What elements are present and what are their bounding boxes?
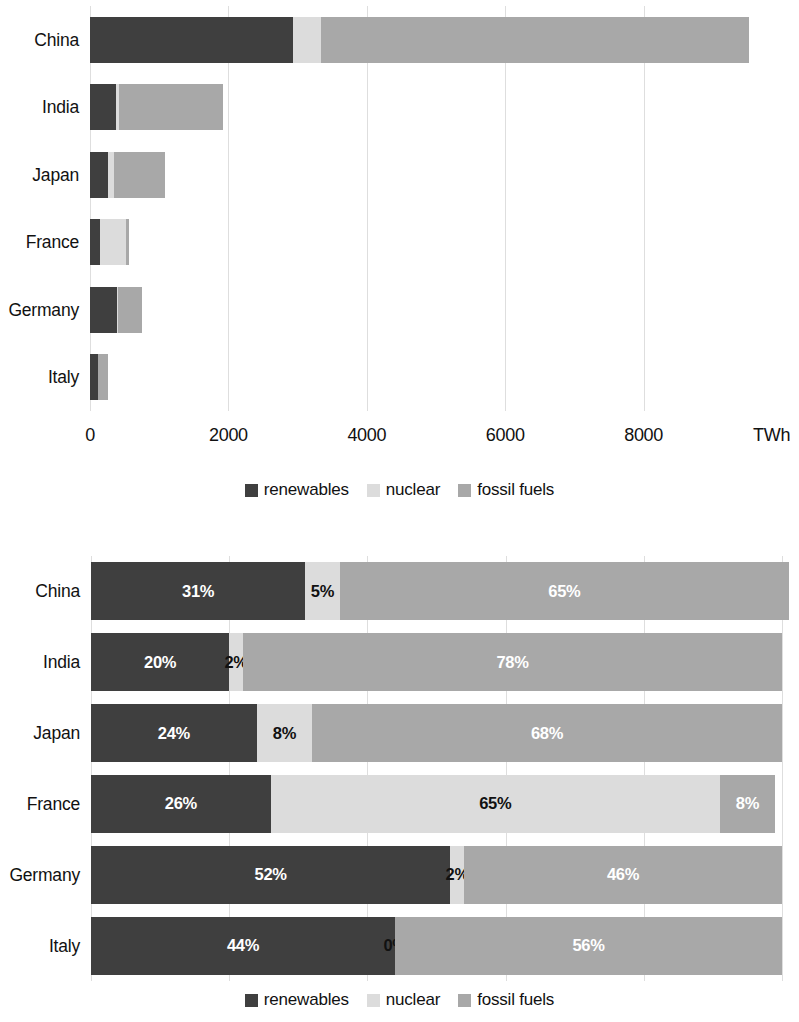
legend-swatch-nuclear-icon xyxy=(367,484,380,497)
gridline-0 xyxy=(90,6,91,411)
x-axis-unit-label: TWh xyxy=(753,425,790,446)
bar-segment-nuclear xyxy=(100,219,126,265)
bar-segment-fossil_fuels: 8% xyxy=(720,775,775,833)
x-tick-6000: 6000 xyxy=(486,425,525,446)
category-label-india: India xyxy=(43,652,80,673)
category-label-germany: Germany xyxy=(8,299,79,320)
legend-label-nuclear: nuclear xyxy=(386,480,440,500)
x-tick-2000: 2000 xyxy=(209,425,248,446)
table-row: Italy xyxy=(90,354,782,400)
legend-swatch-renewables-icon xyxy=(245,994,258,1007)
bar-segment-renewables: 31% xyxy=(91,562,305,620)
bar-segment-renewables xyxy=(90,219,100,265)
table-row: India xyxy=(90,84,782,130)
category-label-japan: Japan xyxy=(32,164,79,185)
bar-value-label: 20% xyxy=(144,653,176,672)
legend-item-renewables: renewables xyxy=(245,480,349,500)
bar-segment-renewables xyxy=(90,287,117,333)
legend-item-fossil_fuels: fossil fuels xyxy=(458,480,554,500)
table-row: Japan24%8%68% xyxy=(91,704,782,762)
bar-value-label: 65% xyxy=(479,794,511,813)
bar-segment-renewables xyxy=(90,84,116,130)
bar-segment-fossil_fuels xyxy=(118,287,142,333)
share-plot-area: China31%5%65%India20%2%78%Japan24%8%68%F… xyxy=(91,556,782,981)
bar-segment-fossil_fuels xyxy=(114,152,165,198)
bar-value-label: 8% xyxy=(273,724,296,743)
bar-segment-renewables: 26% xyxy=(91,775,271,833)
bar-segment-renewables xyxy=(90,354,98,400)
category-label-china: China xyxy=(34,29,79,50)
bar-segment-fossil_fuels: 78% xyxy=(243,633,782,691)
bar-value-label: 26% xyxy=(165,794,197,813)
gridline-2000 xyxy=(228,6,229,411)
bar-value-label: 24% xyxy=(158,724,190,743)
table-row: China31%5%65% xyxy=(91,562,782,620)
bar-segment-nuclear: 65% xyxy=(271,775,720,833)
table-row: Japan xyxy=(90,152,782,198)
bar-segment-fossil_fuels: 56% xyxy=(395,917,782,975)
table-row: Italy44%0%56% xyxy=(91,917,782,975)
table-row: France xyxy=(90,219,782,265)
bar-segment-renewables: 24% xyxy=(91,704,257,762)
bar-segment-fossil_fuels: 46% xyxy=(464,846,782,904)
legend-item-renewables: renewables xyxy=(245,990,349,1010)
category-label-japan: Japan xyxy=(33,723,80,744)
bar-segment-fossil_fuels: 68% xyxy=(312,704,782,762)
bar-value-label: 5% xyxy=(311,582,334,601)
bar-segment-fossil_fuels xyxy=(98,354,108,400)
bar-segment-renewables: 44% xyxy=(91,917,395,975)
legend-item-fossil_fuels: fossil fuels xyxy=(458,990,554,1010)
bar-value-label: 31% xyxy=(182,582,214,601)
category-label-italy: Italy xyxy=(49,935,80,956)
category-label-italy: Italy xyxy=(48,367,79,388)
bar-value-label: 44% xyxy=(227,936,259,955)
legend-label-nuclear: nuclear xyxy=(386,990,440,1010)
legend-label-renewables: renewables xyxy=(264,990,349,1010)
bar-segment-fossil_fuels xyxy=(119,84,223,130)
gridline-8000 xyxy=(644,6,645,411)
gridline-4000 xyxy=(367,6,368,411)
x-tick-8000: 8000 xyxy=(624,425,663,446)
bar-segment-fossil_fuels: 65% xyxy=(340,562,789,620)
legend-label-renewables: renewables xyxy=(264,480,349,500)
share-of-generation-chart: China31%5%65%India20%2%78%Japan24%8%68%F… xyxy=(0,548,799,1022)
legend-swatch-fossil_fuels-icon xyxy=(458,994,471,1007)
bar-value-label: 52% xyxy=(255,865,287,884)
bar-segment-nuclear xyxy=(293,17,321,63)
legend-label-fossil_fuels: fossil fuels xyxy=(477,990,554,1010)
table-row: Germany52%2%46% xyxy=(91,846,782,904)
category-label-china: China xyxy=(35,581,80,602)
category-label-france: France xyxy=(26,232,79,253)
bar-segment-fossil_fuels xyxy=(126,219,129,265)
absolute-legend: renewablesnuclearfossil fuels xyxy=(0,478,799,502)
bar-segment-fossil_fuels xyxy=(321,17,749,63)
bar-value-label: 56% xyxy=(572,936,604,955)
x-tick-4000: 4000 xyxy=(347,425,386,446)
bar-segment-renewables xyxy=(90,152,108,198)
legend-swatch-nuclear-icon xyxy=(367,994,380,1007)
legend-label-fossil_fuels: fossil fuels xyxy=(477,480,554,500)
legend-swatch-fossil_fuels-icon xyxy=(458,484,471,497)
gridline-6000 xyxy=(505,6,506,411)
bar-value-label: 46% xyxy=(607,865,639,884)
bar-value-label: 65% xyxy=(548,582,580,601)
table-row: Germany xyxy=(90,287,782,333)
bar-segment-renewables: 20% xyxy=(91,633,229,691)
chart-page: ChinaIndiaJapanFranceGermanyItaly 020004… xyxy=(0,0,799,1022)
legend-item-nuclear: nuclear xyxy=(367,480,440,500)
legend-swatch-renewables-icon xyxy=(245,484,258,497)
bar-value-label: 78% xyxy=(496,653,528,672)
bar-segment-nuclear: 2% xyxy=(229,633,243,691)
category-label-france: France xyxy=(27,793,80,814)
bar-segment-nuclear: 5% xyxy=(305,562,340,620)
bar-value-label: 68% xyxy=(531,724,563,743)
bar-value-label: 8% xyxy=(736,794,759,813)
category-label-germany: Germany xyxy=(9,864,80,885)
table-row: India20%2%78% xyxy=(91,633,782,691)
x-tick-0: 0 xyxy=(85,425,95,446)
category-label-india: India xyxy=(42,97,79,118)
table-row: China xyxy=(90,17,782,63)
bar-segment-renewables: 52% xyxy=(91,846,450,904)
legend-item-nuclear: nuclear xyxy=(367,990,440,1010)
bar-segment-nuclear: 8% xyxy=(257,704,312,762)
